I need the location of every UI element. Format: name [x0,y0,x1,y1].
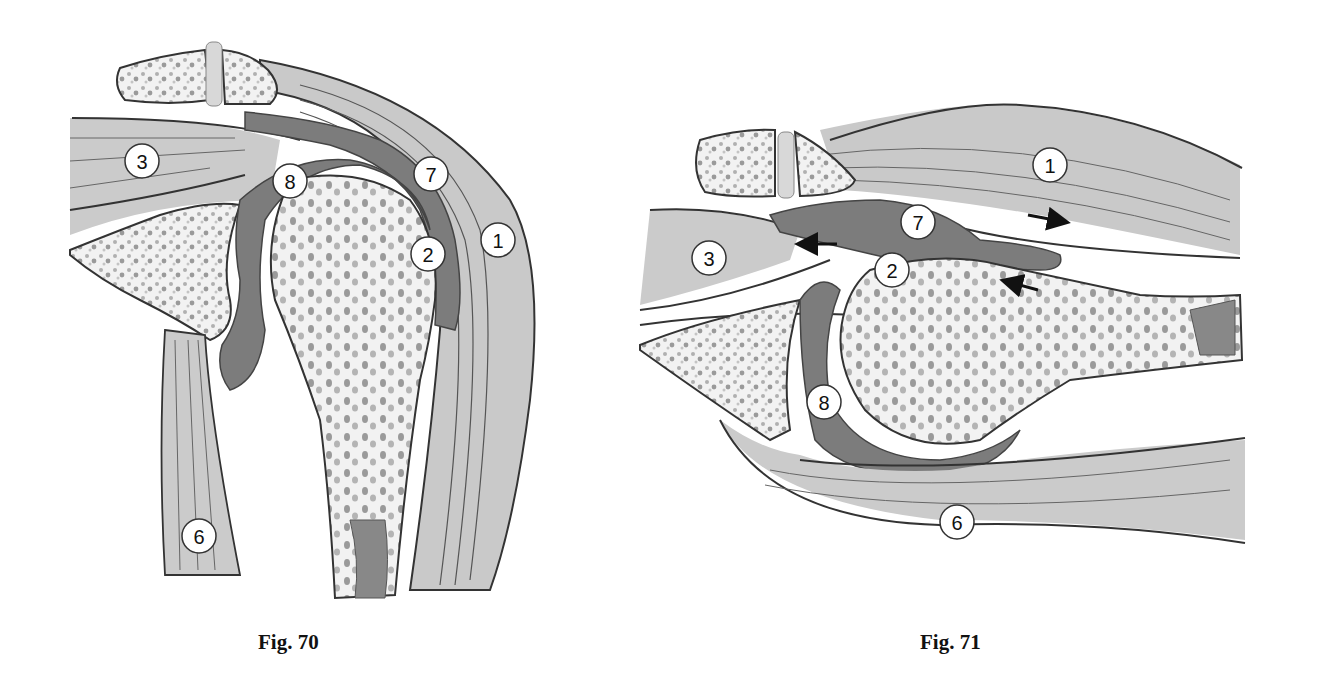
svg-text:6: 6 [951,512,962,534]
figure-71: 1 2 3 6 7 8 Fig. 71 [620,0,1319,686]
svg-text:2: 2 [886,260,897,282]
figure-caption: Fig. 71 [920,630,981,655]
svg-text:8: 8 [818,392,829,414]
clavicle [117,50,210,103]
svg-text:6: 6 [193,526,204,548]
label-2: 2 [875,253,909,287]
label-8: 8 [273,164,307,198]
svg-text:3: 3 [136,151,147,173]
shoulder-diagram-abducted: 1 2 3 6 7 8 [620,0,1319,686]
svg-text:2: 2 [422,244,433,266]
label-1: 1 [481,223,515,257]
label-3: 3 [125,144,159,178]
figure-70: 1 2 3 6 7 8 Fig. 70 [0,0,620,686]
label-7: 7 [901,205,935,239]
svg-text:8: 8 [284,171,295,193]
acromion [222,50,277,104]
svg-text:7: 7 [912,212,923,234]
humerus [841,259,1243,444]
label-3: 3 [692,241,726,275]
label-6: 6 [182,519,216,553]
label-1: 1 [1033,148,1067,182]
label-7: 7 [414,157,448,191]
svg-text:7: 7 [425,164,436,186]
svg-text:3: 3 [703,248,714,270]
figure-caption: Fig. 70 [258,630,319,655]
label-6: 6 [940,505,974,539]
label-8: 8 [807,385,841,419]
svg-text:1: 1 [1044,155,1055,177]
label-2: 2 [411,237,445,271]
shoulder-diagram-frontal: 1 2 3 6 7 8 [0,0,620,686]
svg-text:1: 1 [492,230,503,252]
clavicle [696,130,775,197]
